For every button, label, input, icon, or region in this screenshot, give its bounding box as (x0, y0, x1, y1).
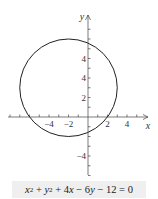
x-tick-label: −4 (44, 119, 54, 129)
eq-part: + (33, 184, 44, 195)
eq-part: − 12 = 0 (95, 184, 133, 195)
y-tick-label: −4 (76, 151, 86, 161)
x-tick-label: 4 (125, 119, 130, 129)
y-tick-label: 4 (82, 54, 87, 64)
y-tick-label: 2 (82, 93, 87, 103)
y-axis-label: y (79, 11, 85, 22)
x-tick-label: −2 (64, 119, 74, 129)
eq-part: − 6 (74, 184, 90, 195)
y-tick-labels: 442−4 (76, 54, 86, 162)
y-ticks (88, 29, 91, 175)
eq-part: + 4 (53, 184, 69, 195)
x-tick-labels: −4−224 (44, 119, 130, 129)
x-tick-label: 2 (105, 119, 110, 129)
circle-plot: −4−224 442−4 x y (0, 0, 158, 180)
y-tick-label: 4 (82, 73, 87, 83)
equation-caption: x2 + y2 + 4x − 6y − 12 = 0 (12, 181, 146, 198)
x-axis-label: x (145, 120, 151, 131)
